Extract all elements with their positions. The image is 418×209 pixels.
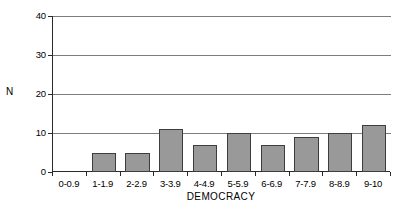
- bar-slot: [87, 16, 121, 172]
- bar-slot: [290, 16, 324, 172]
- x-tick-label: 1-1.9: [86, 178, 120, 189]
- x-tick-label: 6-6.9: [255, 178, 289, 189]
- x-tick-mark: [356, 172, 357, 176]
- x-tick-mark: [221, 172, 222, 176]
- bar-slot: [53, 16, 87, 172]
- x-tick-label: 5-5.9: [221, 178, 255, 189]
- bar-slot: [121, 16, 155, 172]
- x-tick-mark: [255, 172, 256, 176]
- x-tick-label: 2-2.9: [120, 178, 154, 189]
- x-tick-mark: [120, 172, 121, 176]
- bar-slot: [323, 16, 357, 172]
- y-tick-label: 40: [24, 10, 46, 21]
- x-tick-mark: [187, 172, 188, 176]
- bar-slot: [256, 16, 290, 172]
- histogram-chart: N 010203040 0-0.91-1.92-2.93-3.94-4.95-5…: [0, 0, 418, 209]
- bar[interactable]: [159, 129, 183, 172]
- bars-series: [53, 16, 391, 172]
- x-tick-label: 0-0.9: [52, 178, 86, 189]
- x-tick-label: 7-7.9: [289, 178, 323, 189]
- x-tick-mark: [390, 172, 391, 176]
- bar[interactable]: [294, 137, 318, 172]
- x-tick-mark: [289, 172, 290, 176]
- x-tick-mark: [322, 172, 323, 176]
- bar[interactable]: [125, 153, 149, 173]
- bar-slot: [154, 16, 188, 172]
- x-tick-mark: [153, 172, 154, 176]
- x-tick-mark: [86, 172, 87, 176]
- bar[interactable]: [328, 133, 352, 172]
- bar-slot: [222, 16, 256, 172]
- y-tick-label: 30: [24, 49, 46, 60]
- bar-slot: [188, 16, 222, 172]
- bar[interactable]: [92, 153, 116, 173]
- bar[interactable]: [261, 145, 285, 172]
- x-tick-label: 3-3.9: [153, 178, 187, 189]
- x-tick-mark: [52, 172, 53, 176]
- x-axis-title: DEMOCRACY: [52, 191, 390, 202]
- plot-area: [52, 16, 390, 172]
- y-tick-label: 20: [24, 88, 46, 99]
- x-tick-label: 4-4.9: [187, 178, 221, 189]
- bar-slot: [357, 16, 391, 172]
- y-axis-title: N: [6, 86, 13, 97]
- bar[interactable]: [193, 145, 217, 172]
- bar[interactable]: [227, 133, 251, 172]
- bar[interactable]: [362, 125, 386, 172]
- y-tick-label: 0: [24, 166, 46, 177]
- x-tick-label: 8-8.9: [322, 178, 356, 189]
- x-tick-label: 9-10: [356, 178, 390, 189]
- y-tick-label: 10: [24, 127, 46, 138]
